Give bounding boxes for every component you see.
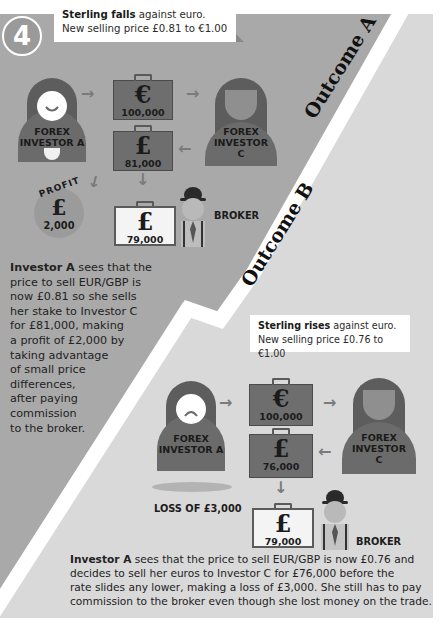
case-handle (274, 503, 292, 510)
callout-text: against euro. (136, 9, 206, 20)
description-line: price to sell EUR/GBP is (10, 276, 190, 291)
investor-c-label-1: FOREX (205, 126, 277, 137)
case-amount: 79,000 (116, 234, 174, 245)
profit-amount: 2,000 (34, 220, 84, 231)
euro-case-100000: € 100,000 (113, 80, 173, 120)
case-amount: 81,000 (114, 158, 172, 169)
description-line: sees that the (75, 261, 152, 274)
case-handle (272, 428, 290, 435)
case-amount: 100,000 (250, 411, 312, 422)
investor-a-figure: FOREX INVESTOR A (18, 78, 86, 162)
pound-case-76000: £ 76,000 (249, 434, 313, 478)
investor-a-sad-figure: FOREX INVESTOR A (157, 381, 225, 471)
case-amount: 100,000 (114, 107, 172, 118)
broker-case-79000: £ 79,000 (114, 206, 176, 246)
investor-a-label-1: FOREX (157, 433, 225, 444)
case-handle (134, 125, 152, 132)
description-line: a profit of £2,000 by (10, 334, 190, 349)
description-line: sees that the price to sell EUR/GBP is n… (131, 553, 414, 565)
arrow-left-icon: ← (178, 141, 191, 157)
broker-case-79000: £ 79,000 (252, 508, 314, 548)
arrow-down-icon: ↓ (136, 172, 149, 188)
step-number-badge: 4 (2, 16, 42, 56)
arrow-right-icon: → (81, 86, 94, 102)
outcome-b-callout: Sterling rises against euro. New selling… (250, 315, 410, 352)
pound-case-81000: £ 81,000 (113, 131, 173, 171)
description-line: now £0.81 so she sells (10, 290, 190, 305)
description-bold: Investor A (70, 553, 131, 565)
investor-c-label-3: C (342, 454, 416, 465)
outcome-b-description: Investor A sees that the price to sell E… (70, 552, 440, 608)
broker-bowler-hat-icon (317, 488, 353, 550)
case-amount: 76,000 (250, 461, 312, 472)
case-handle (136, 201, 154, 208)
pound-icon: £ (250, 437, 312, 461)
description-line: decides to sell her euros to Investor C … (70, 566, 440, 580)
broker-bowler-hat-icon (178, 185, 208, 247)
pound-icon: £ (114, 134, 172, 158)
arrow-right-icon: → (186, 86, 199, 102)
investor-a-label-2: INVESTOR A (18, 137, 86, 148)
investor-c-figure: FOREX INVESTOR C (205, 78, 277, 166)
sad-face-icon (175, 393, 207, 425)
callout-text: against euro. (330, 320, 396, 331)
callout-line2: New selling price £0.76 to €1.00 (258, 333, 402, 361)
description-bold: Investor A (10, 261, 75, 274)
description-line: for £81,000, making (10, 319, 190, 334)
callout-bold: Sterling falls (62, 9, 136, 20)
description-line: her stake to Investor C (10, 305, 190, 320)
description-line: taking advantage (10, 349, 190, 364)
investor-c-label-1: FOREX (342, 432, 416, 443)
callout-bold: Sterling rises (258, 320, 330, 331)
investor-c-label-2: INVESTOR (342, 443, 416, 454)
description-line: of small price (10, 363, 190, 378)
investor-c-label-3: C (205, 148, 277, 159)
arrow-right-icon: → (323, 395, 336, 411)
pound-icon: £ (34, 196, 84, 218)
arrow-right-icon: → (219, 395, 232, 411)
investor-c-figure: FOREX INVESTOR C (342, 378, 416, 474)
investor-a-label-2: INVESTOR A (157, 444, 225, 455)
description-line: rate slides any lower, making a loss of … (70, 580, 440, 594)
euro-icon: € (114, 83, 172, 107)
investor-a-label-1: FOREX (18, 126, 86, 137)
investor-c-label-2: INVESTOR (205, 137, 277, 148)
case-handle (272, 378, 290, 385)
empty-plate-icon (152, 482, 232, 492)
arrow-left-icon: ← (318, 444, 331, 460)
arrow-down-icon: ↓ (274, 480, 287, 496)
pound-icon: £ (116, 210, 174, 234)
case-handle (134, 74, 152, 81)
euro-case-100000: € 100,000 (249, 384, 313, 426)
profit-coin: PROFIT £ 2,000 (34, 188, 84, 238)
outcome-a-callout: Sterling falls against euro. New selling… (54, 4, 236, 42)
callout-fold (236, 34, 244, 42)
euro-icon: € (250, 387, 312, 411)
broker-label-a: BROKER (214, 210, 259, 221)
broker-label-b: BROKER (356, 536, 401, 547)
pound-icon: £ (254, 512, 312, 536)
smiling-face-icon (36, 90, 68, 122)
description-line: commission to the broker even though she… (70, 594, 440, 608)
loss-label: LOSS OF £3,000 (154, 503, 242, 514)
case-amount: 79,000 (254, 536, 312, 547)
callout-line2: New selling price £0.81 to €1.00 (62, 22, 228, 36)
